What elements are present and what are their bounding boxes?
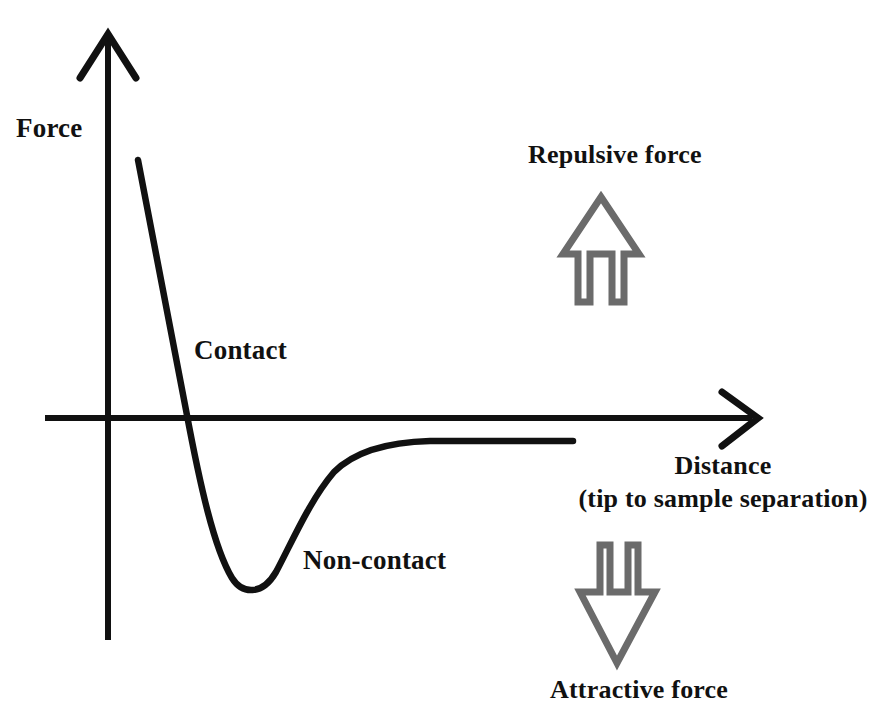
x-axis-group xyxy=(45,392,758,446)
attractive-force-label: Attractive force xyxy=(550,676,728,703)
attractive-down-arrow-icon xyxy=(580,545,655,663)
y-axis-label: Force xyxy=(16,114,82,142)
y-axis-group xyxy=(80,34,136,640)
non-contact-region-label: Non-contact xyxy=(303,546,446,574)
x-axis-label-group: Distance (tip to sample separation) xyxy=(553,451,893,514)
force-curve xyxy=(138,160,573,590)
x-axis-label-secondary: (tip to sample separation) xyxy=(553,484,893,514)
repulsive-up-arrow-icon xyxy=(563,197,639,302)
force-distance-diagram xyxy=(0,0,893,723)
contact-region-label: Contact xyxy=(194,336,287,364)
repulsive-force-label: Repulsive force xyxy=(528,141,702,168)
x-axis-label-primary: Distance xyxy=(553,451,893,481)
figure-canvas: Force Contact Non-contact Repulsive forc… xyxy=(0,0,893,723)
